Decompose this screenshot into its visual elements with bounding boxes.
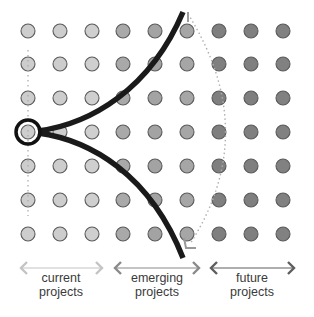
grid-dot (276, 227, 290, 241)
grid-dot (276, 24, 290, 38)
grid-dot (53, 227, 67, 241)
grid-dot (212, 227, 226, 241)
grid-dot (148, 125, 162, 139)
grid-dot (276, 125, 290, 139)
label-future-line2: projects (207, 285, 297, 299)
grid-dot (85, 159, 99, 173)
grid-dot (21, 24, 35, 38)
grid-dot (212, 125, 226, 139)
grid-dot (180, 91, 194, 105)
grid-dot (244, 91, 258, 105)
grid-dot (148, 24, 162, 38)
grid-dot (116, 57, 130, 71)
grid-dot (53, 57, 67, 71)
grid-dot (53, 24, 67, 38)
grid-dot (180, 125, 194, 139)
label-current-projects: current projects (16, 271, 106, 299)
grid-dot (85, 57, 99, 71)
grid-dot (180, 193, 194, 207)
grid-dot (116, 193, 130, 207)
grid-dot (276, 91, 290, 105)
grid-dot (180, 57, 194, 71)
label-future-projects: future projects (207, 271, 297, 299)
grid-dot (276, 159, 290, 173)
label-current-line1: current (16, 271, 106, 285)
grid-dot (53, 91, 67, 105)
grid-dot (116, 24, 130, 38)
grid-dot (276, 193, 290, 207)
opportunity-diagram (0, 0, 314, 317)
grid-dot (21, 57, 35, 71)
grid-dot (85, 91, 99, 105)
grid-dot (85, 125, 99, 139)
grid-dot (21, 91, 35, 105)
grid-dot (85, 193, 99, 207)
grid-dot (180, 24, 194, 38)
grid-dot (21, 125, 35, 139)
grid-dot (212, 24, 226, 38)
grid-dot (276, 57, 290, 71)
grid-dot (244, 193, 258, 207)
grid-dot (180, 227, 194, 241)
grid-dot (116, 227, 130, 241)
grid-dot (148, 91, 162, 105)
grid-dot (53, 159, 67, 173)
grid-dot (244, 125, 258, 139)
grid-dot (53, 193, 67, 207)
label-emerging-projects: emerging projects (112, 271, 202, 299)
grid-dot (21, 227, 35, 241)
grid-dot (244, 57, 258, 71)
label-emerging-line1: emerging (112, 271, 202, 285)
label-current-line2: projects (16, 285, 106, 299)
grid-dot (148, 159, 162, 173)
label-future-line1: future (207, 271, 297, 285)
grid-dot (116, 125, 130, 139)
grid-dot (85, 227, 99, 241)
grid-dot (85, 24, 99, 38)
grid-dot (212, 91, 226, 105)
grid-dot (212, 159, 226, 173)
grid-dot (244, 24, 258, 38)
grid-dot (244, 159, 258, 173)
grid-dot (148, 227, 162, 241)
grid-dot (244, 227, 258, 241)
label-emerging-line2: projects (112, 285, 202, 299)
grid-dot (180, 159, 194, 173)
